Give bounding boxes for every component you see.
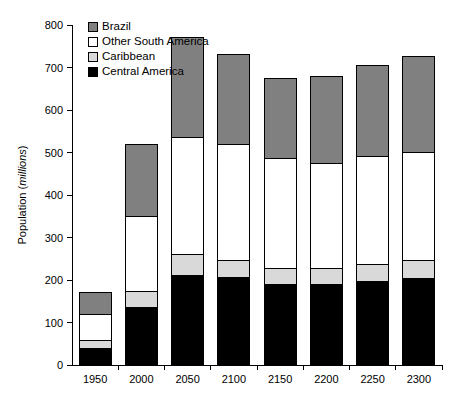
x-tick-label: 2100 bbox=[222, 373, 246, 385]
y-tick-label: 200 bbox=[45, 274, 63, 286]
bar-group bbox=[264, 78, 296, 365]
bar-segment bbox=[79, 348, 111, 365]
population-stacked-bar-chart: 0100200300400500600700800 19502000205021… bbox=[0, 0, 454, 407]
y-tick-label: 600 bbox=[45, 104, 63, 116]
bar-segment bbox=[310, 268, 342, 284]
x-tick-label: 2050 bbox=[175, 373, 199, 385]
bar-segment bbox=[357, 281, 389, 365]
y-tick-label: 700 bbox=[45, 62, 63, 74]
y-tick-label: 100 bbox=[45, 317, 63, 329]
bar-segment bbox=[218, 261, 250, 278]
bar-group bbox=[403, 57, 435, 365]
bar-segment bbox=[403, 57, 435, 153]
legend-swatch bbox=[88, 37, 97, 46]
legend-label: Caribbean bbox=[102, 50, 155, 62]
y-tick-label: 300 bbox=[45, 232, 63, 244]
chart-canvas: 0100200300400500600700800 19502000205021… bbox=[0, 0, 454, 407]
bar-segment bbox=[125, 308, 157, 365]
bar-group bbox=[125, 144, 157, 365]
bar-segment bbox=[310, 284, 342, 365]
bar-segment bbox=[218, 144, 250, 261]
bar-segment bbox=[172, 255, 204, 276]
bar-segment bbox=[264, 159, 296, 269]
bar-segment bbox=[310, 76, 342, 163]
bar-group bbox=[357, 65, 389, 365]
bar-segment bbox=[218, 278, 250, 365]
bar-segment bbox=[79, 292, 111, 315]
legend-label: Brazil bbox=[102, 20, 131, 32]
bar-segment bbox=[125, 292, 157, 308]
y-tick-label: 800 bbox=[45, 19, 63, 31]
bar-segment bbox=[79, 341, 111, 348]
bar-segment bbox=[125, 216, 157, 292]
x-tick-label: 2000 bbox=[129, 373, 153, 385]
legend-swatch bbox=[88, 52, 97, 61]
bar-segment bbox=[403, 153, 435, 261]
y-tick-label: 0 bbox=[57, 359, 63, 371]
x-tick-label: 2200 bbox=[314, 373, 338, 385]
bar-segment bbox=[264, 269, 296, 285]
x-tick-label: 2250 bbox=[360, 373, 384, 385]
bar-segment bbox=[264, 284, 296, 365]
bar-segment bbox=[357, 157, 389, 265]
x-tick-label: 2300 bbox=[407, 373, 431, 385]
legend-swatch bbox=[88, 67, 97, 76]
x-tick-label: 2150 bbox=[268, 373, 292, 385]
bar-group bbox=[310, 76, 342, 365]
legend-label: Central America bbox=[102, 65, 184, 77]
bar-segment bbox=[357, 264, 389, 281]
bar-group bbox=[218, 55, 250, 365]
bar-segment bbox=[172, 38, 204, 138]
bar-segment bbox=[172, 138, 204, 255]
bar-segment bbox=[264, 78, 296, 159]
legend-swatch bbox=[88, 22, 97, 31]
y-axis-title-text: Population (millions) bbox=[16, 145, 28, 244]
bar-segment bbox=[403, 261, 435, 279]
y-axis-title: Population (millions) bbox=[16, 145, 28, 244]
bar-group bbox=[79, 292, 111, 365]
bar-segment bbox=[172, 276, 204, 365]
bar-segment bbox=[403, 279, 435, 365]
y-tick-label: 500 bbox=[45, 147, 63, 159]
bar-segment bbox=[310, 163, 342, 268]
bar-segment bbox=[125, 144, 157, 216]
bar-segment bbox=[218, 55, 250, 144]
legend-label: Other South America bbox=[102, 35, 209, 47]
bar-segment bbox=[79, 315, 111, 341]
bar-group bbox=[172, 38, 204, 365]
y-tick-label: 400 bbox=[45, 189, 63, 201]
bar-segment bbox=[357, 65, 389, 156]
x-tick-label: 1950 bbox=[83, 373, 107, 385]
